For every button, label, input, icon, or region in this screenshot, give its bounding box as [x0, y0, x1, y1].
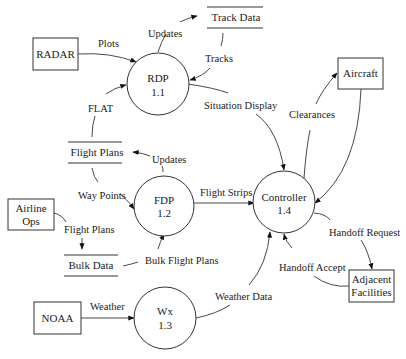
svg-text:Wx: Wx — [157, 305, 173, 317]
entity-aircraft: Aircraft — [338, 58, 383, 89]
svg-text:Adjacent: Adjacent — [352, 273, 392, 285]
store-bulk-data: Bulk Data — [64, 255, 118, 276]
flow-weather-data — [196, 305, 230, 318]
process-wx: Wx 1.3 — [134, 287, 196, 349]
flow-flight-plans-airline — [54, 213, 66, 222]
flow-label-way-points: Way Points — [78, 190, 126, 201]
flow-label-handoff-accept: Handoff Accept — [279, 262, 346, 273]
flow-label-plots: Plots — [98, 38, 119, 49]
flow-updates-fp — [162, 166, 163, 172]
flow-label-bulk-flight-plans: Bulk Flight Plans — [145, 255, 219, 266]
svg-text:Ops: Ops — [22, 215, 40, 227]
flow-clearances — [304, 130, 310, 178]
svg-text:1.3: 1.3 — [158, 319, 172, 331]
entity-airline-ops: Airline Ops — [8, 199, 54, 230]
svg-text:1.2: 1.2 — [157, 207, 171, 219]
store-flight-plans: Flight Plans — [68, 142, 123, 163]
svg-text:1.4: 1.4 — [277, 204, 291, 216]
flow-label-clearances: Clearances — [289, 109, 335, 120]
process-fdp: FDP 1.2 — [134, 176, 194, 236]
entity-adjacent-facilities: Adjacent Facilities — [349, 270, 394, 302]
flow-label-updates-track: Updates — [148, 28, 182, 39]
svg-text:Facilities: Facilities — [351, 286, 391, 298]
flow-label-weather-data: Weather Data — [215, 291, 273, 302]
flow-bulk-flight-plans — [123, 262, 138, 266]
flow-tracks — [221, 33, 223, 46]
flow-label-tracks: Tracks — [205, 53, 233, 64]
svg-text:Airline: Airline — [15, 202, 46, 214]
flow-handoff-request — [314, 213, 330, 220]
flow-situation-display — [188, 84, 228, 93]
svg-text:Track Data: Track Data — [212, 11, 261, 23]
svg-text:1.1: 1.1 — [151, 86, 165, 98]
flow-plots — [78, 54, 136, 62]
svg-text:Bulk Data: Bulk Data — [69, 259, 114, 271]
svg-text:NOAA: NOAA — [42, 312, 74, 324]
flow-label-flight-plans-airline: Flight Plans — [64, 224, 114, 235]
flow-flat — [92, 116, 95, 137]
process-rdp: RDP 1.1 — [127, 53, 189, 115]
flow-label-handoff-request: Handoff Request — [329, 227, 400, 238]
process-controller: Controller 1.4 — [253, 171, 315, 233]
svg-text:Aircraft: Aircraft — [343, 67, 378, 79]
flow-way-points — [92, 168, 98, 182]
data-flow-diagram: Plots Updates Tracks FLAT Situation Disp… — [0, 0, 406, 359]
svg-text:Flight Plans: Flight Plans — [71, 146, 124, 158]
flow-label-updates-fp: Updates — [152, 154, 186, 165]
svg-text:FDP: FDP — [154, 194, 174, 206]
svg-text:Controller: Controller — [261, 191, 307, 203]
entity-noaa: NOAA — [34, 302, 81, 334]
flow-label-weather: Weather — [90, 301, 125, 312]
flow-label-situation-display: Situation Display — [204, 100, 278, 111]
flow-aircraft-controller — [315, 89, 361, 203]
entity-radar: RADAR — [33, 38, 78, 70]
flow-handoff-accept — [314, 276, 349, 286]
svg-text:RADAR: RADAR — [36, 48, 75, 60]
store-track-data: Track Data — [207, 7, 263, 28]
svg-text:RDP: RDP — [147, 72, 168, 84]
flow-label-flat: FLAT — [88, 103, 114, 114]
flow-label-flight-strips: Flight Strips — [200, 187, 252, 198]
